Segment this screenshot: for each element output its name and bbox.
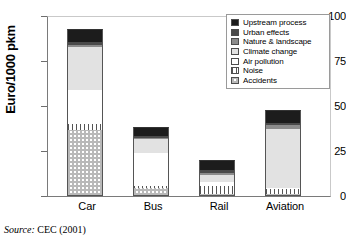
nature-swatch-icon bbox=[231, 38, 239, 45]
legend-item-accidents[interactable]: Accidents bbox=[231, 76, 326, 86]
bar-car-segment-air-pollution bbox=[67, 90, 103, 124]
bar-rail-segment-accidents bbox=[199, 194, 235, 196]
figure: Euro/1000 pkm 100 75 50 25 0 bbox=[0, 0, 346, 246]
source-value: CEC (2001) bbox=[37, 224, 86, 235]
climate-swatch-icon bbox=[231, 48, 239, 55]
bar-car-segment-accidents bbox=[67, 130, 103, 196]
legend-label-nature-landscape: Nature & landscape bbox=[243, 37, 311, 46]
noise-swatch-icon bbox=[231, 67, 239, 74]
legend-item-upstream-process[interactable]: Upstream process bbox=[231, 18, 326, 28]
x-tick-label-aviation: Aviation bbox=[246, 200, 324, 212]
legend-item-climate-change[interactable]: Climate change bbox=[231, 47, 326, 57]
bar-bus-segment-climate-change bbox=[133, 139, 169, 153]
bar-bus-segment-upstream-process bbox=[133, 127, 169, 136]
legend-label-accidents: Accidents bbox=[243, 76, 277, 85]
bar-car[interactable] bbox=[67, 29, 103, 196]
urban-swatch-icon bbox=[231, 29, 239, 36]
accidents-swatch-icon bbox=[231, 77, 239, 84]
air-swatch-icon bbox=[231, 58, 239, 65]
bar-aviation[interactable] bbox=[265, 110, 301, 196]
bar-bus-segment-air-pollution bbox=[133, 153, 169, 186]
bar-bus[interactable] bbox=[133, 127, 169, 196]
legend-item-urban-effects[interactable]: Urban effects bbox=[231, 28, 326, 38]
legend-label-noise: Noise bbox=[243, 66, 263, 75]
source-caption: Source: CEC (2001) bbox=[4, 224, 86, 236]
bar-aviation-segment-upstream-process bbox=[265, 110, 301, 123]
bar-rail-segment-climate-change bbox=[199, 175, 235, 182]
bar-aviation-segment-accidents bbox=[265, 194, 301, 196]
legend-label-upstream-process: Upstream process bbox=[243, 18, 306, 27]
bar-rail[interactable] bbox=[199, 160, 235, 196]
y-axis-title: Euro/1000 pkm bbox=[3, 0, 18, 150]
bar-rail-segment-noise bbox=[199, 186, 235, 194]
source-label: Source: bbox=[4, 224, 35, 235]
legend-label-air-pollution: Air pollution bbox=[243, 57, 284, 66]
legend-item-nature-landscape[interactable]: Nature & landscape bbox=[231, 37, 326, 47]
legend-item-noise[interactable]: Noise bbox=[231, 66, 326, 76]
legend-label-climate-change: Climate change bbox=[243, 47, 297, 56]
legend-label-urban-effects: Urban effects bbox=[243, 28, 289, 37]
bar-bus-segment-accidents bbox=[133, 188, 169, 196]
legend: Upstream process Urban effects Nature & … bbox=[226, 14, 330, 89]
bar-aviation-segment-climate-change bbox=[265, 129, 301, 188]
legend-item-air-pollution[interactable]: Air pollution bbox=[231, 56, 326, 66]
bar-rail-segment-upstream-process bbox=[199, 160, 235, 170]
bar-car-segment-upstream-process bbox=[67, 29, 103, 42]
bar-car-segment-climate-change bbox=[67, 47, 103, 90]
upstream-swatch-icon bbox=[231, 19, 239, 26]
